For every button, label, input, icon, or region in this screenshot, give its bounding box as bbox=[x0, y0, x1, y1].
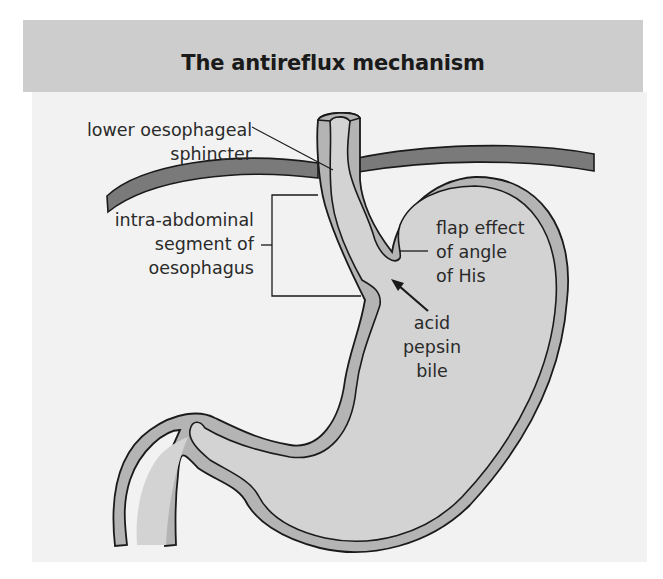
diaphragm-left bbox=[107, 158, 318, 212]
stomach-illustration bbox=[0, 0, 663, 579]
les-label: lower oesophageal sphincter bbox=[60, 118, 252, 166]
diaphragm-right bbox=[358, 146, 594, 172]
gastric-contents-label: acid pepsin bile bbox=[392, 311, 472, 383]
intra-abdominal-label: intra-abdominal segment of oesophagus bbox=[60, 208, 254, 280]
flap-label: flap effect of angle of His bbox=[436, 216, 556, 288]
